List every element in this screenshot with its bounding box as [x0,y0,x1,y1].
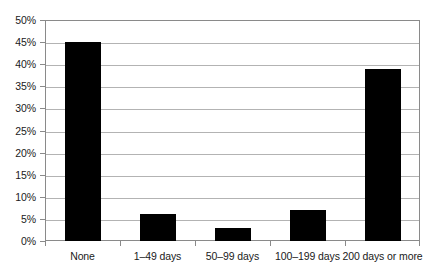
y-tick-label: 30% [0,103,36,114]
y-tick-label: 0% [0,236,36,247]
y-tick-label: 15% [0,169,36,180]
x-tick-label: None [70,249,95,263]
x-tick-mark [45,241,46,246]
x-tick-mark [419,241,420,246]
y-tick-mark [40,197,45,198]
y-tick-mark [40,42,45,43]
y-tick-label: 45% [0,37,36,48]
gridline [46,65,419,66]
plot-area [45,20,420,241]
y-tick-label: 35% [0,81,36,92]
x-tick-label: 50–99 days [206,249,259,263]
x-tick-mark [345,241,346,246]
gridline [46,220,419,221]
gridline [46,132,419,133]
y-tick-mark [40,219,45,220]
y-tick-mark [40,64,45,65]
x-tick-label: 1–49 days [134,249,182,263]
y-tick-mark [40,20,45,21]
x-tick-mark [195,241,196,246]
y-tick-label: 20% [0,147,36,158]
gridline [46,176,419,177]
x-tick-label: 200 days or more [342,249,422,263]
y-tick-label: 40% [0,59,36,70]
bar-chart: 0%5%10%15%20%25%30%35%40%45%50% None1–49… [0,0,434,273]
x-axis: None1–49 days50–99 days100–199 days200 d… [45,249,420,269]
gridline [46,43,419,44]
x-axis-ticks [45,241,420,247]
gridline [46,109,419,110]
y-tick-mark [40,131,45,132]
y-tick-mark [40,108,45,109]
gridline [46,154,419,155]
x-tick-mark [270,241,271,246]
y-axis: 0%5%10%15%20%25%30%35%40%45%50% [0,0,45,273]
y-tick-label: 25% [0,125,36,136]
x-tick-label: 100–199 days [275,249,340,263]
x-tick-mark [120,241,121,246]
y-tick-label: 5% [0,214,36,225]
y-tick-mark [40,86,45,87]
y-tick-mark [40,175,45,176]
gridline [46,198,419,199]
y-tick-mark [40,153,45,154]
y-tick-label: 50% [0,15,36,26]
gridline [46,87,419,88]
y-tick-label: 10% [0,192,36,203]
